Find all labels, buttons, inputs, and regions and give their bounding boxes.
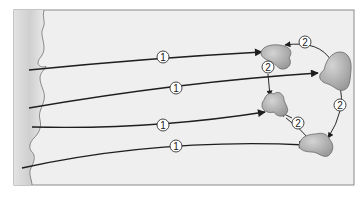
label-step2-mid: 2	[262, 61, 274, 73]
label-step1-d: 1	[170, 140, 182, 152]
svg-text:2: 2	[337, 100, 343, 111]
svg-text:1: 1	[160, 52, 166, 63]
label-step1-b: 1	[170, 82, 182, 94]
pathway-diagram: 1 1 1 1 2 2 2 2	[0, 0, 364, 200]
label-step2-top: 2	[299, 36, 311, 48]
svg-text:1: 1	[160, 120, 166, 131]
svg-text:2: 2	[295, 118, 301, 129]
label-step1-a: 1	[157, 51, 169, 63]
svg-text:2: 2	[302, 37, 308, 48]
label-step1-c: 1	[157, 119, 169, 131]
svg-text:1: 1	[173, 83, 179, 94]
svg-text:1: 1	[173, 141, 179, 152]
svg-text:2: 2	[265, 62, 271, 73]
label-step2-lower: 2	[292, 117, 304, 129]
diagram-canvas: 1 1 1 1 2 2 2 2	[0, 0, 364, 200]
label-step2-right: 2	[334, 99, 346, 111]
